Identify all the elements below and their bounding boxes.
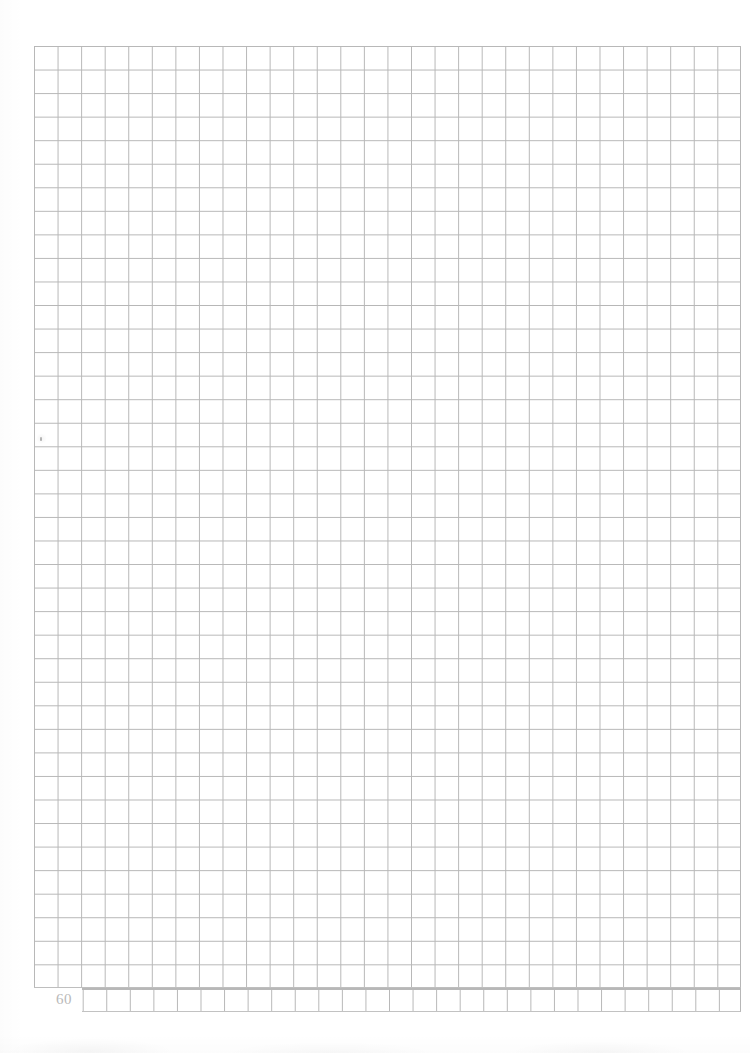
graph-paper-page: 60 xyxy=(0,0,750,1053)
stray-pencil-mark xyxy=(40,437,42,441)
scan-edge-shadow-bottom xyxy=(0,1011,750,1053)
scan-edge-shadow-left xyxy=(0,0,30,1053)
graph-grid-bottom-strip xyxy=(82,988,741,1012)
page-number: 60 xyxy=(49,990,79,1008)
graph-grid-main xyxy=(34,46,741,988)
